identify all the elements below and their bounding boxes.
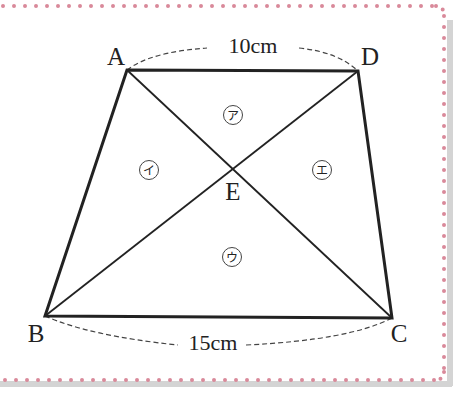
dimension-arc-bc-left bbox=[45, 316, 178, 345]
dimension-label-bc: 15cm bbox=[189, 330, 238, 355]
dimension-arc-bc-right bbox=[246, 318, 392, 345]
svg-text:ア: ア bbox=[227, 109, 239, 123]
svg-text:エ: エ bbox=[316, 164, 328, 178]
dimension-arc-ad-left bbox=[127, 48, 207, 70]
dimension-arc-ad-right bbox=[299, 48, 358, 71]
trapezoid-figure: A D B C E 10cm 15cm ア イ ウ エ bbox=[0, 0, 459, 394]
vertex-label-a: A bbox=[107, 43, 125, 70]
trapezoid-abcd bbox=[45, 70, 392, 318]
diagonal-ac bbox=[127, 70, 392, 318]
region-marker-a: ア bbox=[224, 106, 243, 125]
vertex-label-c: C bbox=[391, 320, 408, 347]
vertex-label-e: E bbox=[225, 178, 240, 205]
region-marker-e: エ bbox=[313, 161, 332, 180]
svg-text:ウ: ウ bbox=[226, 251, 238, 265]
dimension-label-ad: 10cm bbox=[229, 33, 278, 58]
region-marker-i: イ bbox=[140, 161, 159, 180]
diagonal-bd bbox=[45, 71, 358, 316]
vertex-label-b: B bbox=[28, 320, 45, 347]
vertex-label-d: D bbox=[361, 43, 379, 70]
svg-text:イ: イ bbox=[143, 164, 155, 178]
diagram-frame: A D B C E 10cm 15cm ア イ ウ エ bbox=[0, 0, 459, 394]
region-marker-u: ウ bbox=[223, 248, 242, 267]
